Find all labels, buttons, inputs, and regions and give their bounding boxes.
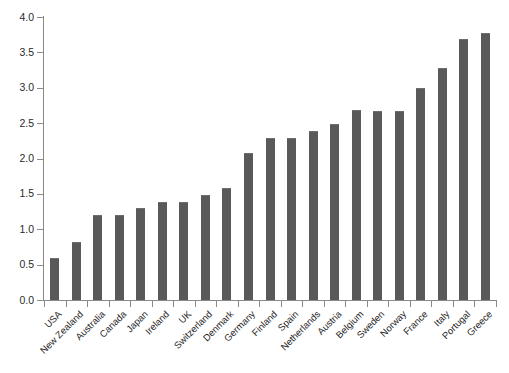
bar [438,68,447,300]
bar [50,258,59,300]
bar [93,215,102,300]
y-axis-tick-label: 0.5 [0,259,34,270]
x-axis-tick [345,301,346,307]
plot-area [44,17,496,300]
y-axis-tick [37,194,44,195]
y-axis-tick-label: 4.0 [0,12,34,23]
x-axis-tick [152,301,153,307]
y-axis-tick-label-text: 2.5 [0,118,34,129]
y-axis-tick [37,88,44,89]
bar [330,124,339,300]
bar [266,138,275,300]
bar-chart: 0.00.51.01.52.02.53.03.54.0 USANew Zeala… [0,0,509,373]
bar [158,202,167,300]
bar [201,195,210,300]
y-axis-tick [37,123,44,124]
y-axis-tick [37,159,44,160]
x-axis-tick [130,301,131,307]
x-axis-tick [367,301,368,307]
x-axis-tick [259,301,260,307]
x-axis-tick [109,301,110,307]
y-axis-tick-label-text: 0.0 [0,295,34,306]
x-axis-tick [324,301,325,307]
x-axis-tick [453,301,454,307]
y-axis-tick-label-text: 4.0 [0,12,34,23]
y-axis-tick-label-text: 3.5 [0,47,34,58]
y-axis-tick-label-text: 2.0 [0,153,34,164]
y-axis-tick-label: 0.0 [0,295,34,306]
x-axis-tick [496,301,497,307]
bar [481,33,490,300]
bar [309,131,318,300]
bar [416,88,425,300]
y-axis-tick-label-text: 1.5 [0,188,34,199]
y-axis-tick-label: 3.0 [0,82,34,93]
x-axis-tick [431,301,432,307]
x-axis-tick [216,301,217,307]
bar [395,111,404,300]
bar [136,208,145,300]
y-axis-tick-label-text: 3.0 [0,82,34,93]
x-axis-tick [195,301,196,307]
y-axis-tick-label: 2.5 [0,118,34,129]
bar [115,215,124,300]
bar [222,188,231,300]
x-axis-tick [44,301,45,307]
x-axis-tick [302,301,303,307]
x-axis-tick [410,301,411,307]
y-axis-tick-label: 1.5 [0,188,34,199]
x-axis-tick [388,301,389,307]
y-axis-tick [37,17,44,18]
x-axis-tick [281,301,282,307]
y-axis-tick [37,52,44,53]
y-axis-tick-label-text: 0.5 [0,259,34,270]
bar [287,138,296,300]
x-axis-tick [66,301,67,307]
y-axis-tick-label-text: 1.0 [0,224,34,235]
x-axis-line [43,300,497,301]
x-axis-tick [238,301,239,307]
bar [244,153,253,300]
y-axis-tick [37,229,44,230]
bar [352,110,361,300]
x-axis-tick [87,301,88,307]
bar [72,242,81,300]
y-axis-tick [37,300,44,301]
y-axis-tick-label: 1.0 [0,224,34,235]
x-axis-labels: USANew ZealandAustraliaCanadaJapanIrelan… [0,309,509,373]
x-axis-tick [173,301,174,307]
bar [179,202,188,300]
bar [373,111,382,300]
y-axis-tick [37,265,44,266]
y-axis-tick-label: 3.5 [0,47,34,58]
x-axis-tick [474,301,475,307]
bar [459,39,468,300]
y-axis-tick-label: 2.0 [0,153,34,164]
